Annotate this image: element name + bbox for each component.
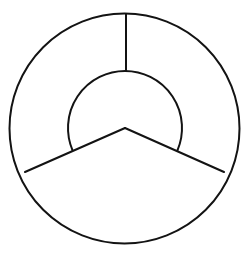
radius-lower-left	[25, 128, 125, 172]
inner-circle-arc	[68, 71, 182, 150]
radius-lower-right	[125, 128, 224, 172]
figure-canvas	[0, 0, 251, 262]
concentric-sector-diagram	[0, 0, 251, 262]
